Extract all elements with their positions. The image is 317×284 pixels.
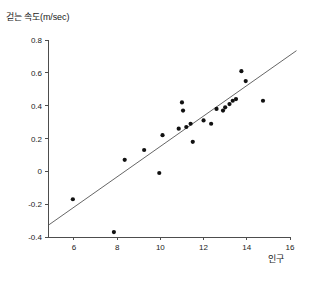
x-tick-label: 6 (72, 243, 77, 252)
data-point (180, 100, 184, 104)
x-tick-label: 14 (242, 243, 251, 252)
data-point (189, 122, 193, 126)
regression-line (49, 51, 296, 225)
data-point (177, 127, 181, 131)
y-tick-label: 0.8 (31, 36, 43, 45)
data-points (71, 69, 265, 234)
data-point (184, 125, 188, 129)
data-point (234, 97, 238, 101)
y-tick-label: 0 (38, 167, 43, 176)
data-point (244, 79, 248, 83)
plot-area: -0.4-0.200.20.40.60.8 6810121416 (0, 0, 317, 284)
data-point (214, 107, 218, 111)
data-point (142, 148, 146, 152)
data-point (157, 171, 161, 175)
x-axis: 6810121416 (48, 237, 295, 252)
data-point (160, 133, 164, 137)
x-tick-label: 8 (115, 243, 120, 252)
x-tick-label: 16 (286, 243, 295, 252)
scatter-plot-figure: 걷는 속도(m/sec) 인구 -0.4-0.200.20.40.60.8 68… (0, 0, 317, 284)
trend-line (49, 51, 296, 225)
y-axis: -0.4-0.200.20.40.60.8 (28, 36, 48, 242)
y-tick-label: -0.2 (28, 200, 42, 209)
data-point (181, 108, 185, 112)
data-point (71, 197, 75, 201)
data-point (227, 102, 231, 106)
data-point (112, 230, 116, 234)
data-point (191, 140, 195, 144)
x-tick-label: 10 (156, 243, 165, 252)
data-point (261, 99, 265, 103)
y-tick-label: 0.4 (31, 102, 43, 111)
data-point (209, 122, 213, 126)
x-tick-label: 12 (199, 243, 208, 252)
y-tick-label: 0.2 (31, 135, 43, 144)
data-point (239, 69, 243, 73)
y-tick-label: 0.6 (31, 69, 43, 78)
data-point (123, 158, 127, 162)
data-point (223, 105, 227, 109)
data-point (201, 118, 205, 122)
y-tick-label: -0.4 (28, 233, 42, 242)
